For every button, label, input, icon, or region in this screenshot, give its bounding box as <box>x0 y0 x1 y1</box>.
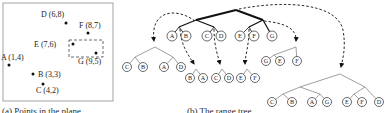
range-tree-figure: A (1,4) B (3,3) C (4,2) D (6,8) E (7,6) … <box>0 0 385 113</box>
svg-text:A: A <box>170 32 175 39</box>
svg-text:D: D <box>219 32 224 39</box>
assoc-leaf: D <box>375 98 384 107</box>
tree-leaf: B <box>181 31 191 41</box>
svg-text:D: D <box>227 74 232 81</box>
svg-text:F: F <box>252 32 256 39</box>
point-label-f: F (8,7) <box>79 21 101 30</box>
point-label-e: E (7,6) <box>34 40 57 49</box>
assoc-leaf: D <box>225 74 234 83</box>
point-label-a: A (1,4) <box>1 53 24 62</box>
assoc-structure-ba: B A <box>186 74 208 83</box>
point-dot-d <box>65 22 68 25</box>
svg-text:A: A <box>201 74 206 81</box>
svg-text:C: C <box>125 63 129 70</box>
svg-text:E: E <box>238 32 242 39</box>
query-rectangle <box>69 40 103 57</box>
assoc-leaf: A <box>160 63 169 72</box>
tree-leaf: C <box>202 31 212 41</box>
point-dot-g <box>95 52 98 55</box>
tree-leaf: E <box>235 31 245 41</box>
assoc-leaf: C <box>268 98 277 107</box>
svg-text:C: C <box>205 32 209 39</box>
point-label-b: B (3,3) <box>38 70 61 79</box>
svg-text:A: A <box>162 63 167 70</box>
svg-text:B: B <box>188 74 192 81</box>
point-dot-a <box>8 64 11 67</box>
tree-leaf: D <box>216 31 226 41</box>
svg-text:E: E <box>345 98 349 105</box>
svg-text:G: G <box>325 98 330 105</box>
svg-text:C: C <box>214 74 218 81</box>
assoc-leaf: B <box>139 63 148 72</box>
tree-leaf: F <box>249 31 259 41</box>
assoc-leaf: F <box>358 98 367 107</box>
point-dot-e <box>72 43 75 46</box>
panel-a-point-plot: A (1,4) B (3,3) C (4,2) D (6,8) E (7,6) … <box>1 3 113 101</box>
svg-text:D: D <box>179 63 184 70</box>
assoc-leaf: D <box>177 63 186 72</box>
assoc-structure-cbagefd: C B A G E F D <box>268 98 384 107</box>
svg-text:B: B <box>184 32 189 39</box>
figure-canvas: A (1,4) B (3,3) C (4,2) D (6,8) E (7,6) … <box>0 0 385 113</box>
caption-b: (b) The range tree <box>187 106 252 113</box>
assoc-leaf: E <box>276 57 285 66</box>
assoc-structure-gef: G E F <box>262 57 302 66</box>
point-label-d: D (6,8) <box>41 10 64 19</box>
assoc-leaf: G <box>262 57 271 66</box>
assoc-leaf: F <box>251 74 260 83</box>
assoc-structure-cbad: C B A D <box>123 63 186 72</box>
assoc-leaf: E <box>343 98 352 107</box>
assoc-leaf: G <box>323 98 332 107</box>
svg-text:G: G <box>270 32 275 39</box>
assoc-leaf: C <box>123 63 132 72</box>
assoc-leaf: B <box>288 98 297 107</box>
point-dot-f <box>87 32 90 35</box>
svg-text:G: G <box>264 57 269 64</box>
point-dot-b <box>32 73 35 76</box>
svg-text:B: B <box>290 98 294 105</box>
assoc-structure-cd: C D <box>212 74 234 83</box>
assoc-leaf: A <box>199 74 208 83</box>
panel-b-range-tree: A B C D E F G C B A D B A C D E F G <box>123 4 384 106</box>
svg-text:F: F <box>253 74 257 81</box>
svg-text:B: B <box>141 63 145 70</box>
assoc-leaf: E <box>237 74 246 83</box>
caption-a: (a) Points in the plane <box>2 106 81 113</box>
svg-text:E: E <box>278 57 282 64</box>
assoc-leaf: F <box>293 57 302 66</box>
point-label-c: C (4,2) <box>36 86 59 95</box>
assoc-leaf: C <box>212 74 221 83</box>
svg-text:E: E <box>239 74 243 81</box>
svg-text:D: D <box>377 98 382 105</box>
assoc-leaf: A <box>308 98 317 107</box>
assoc-leaf: B <box>186 74 195 83</box>
tree-leaf: G <box>267 31 277 41</box>
point-label-g: G (9,5) <box>78 57 101 66</box>
svg-text:F: F <box>295 57 299 64</box>
assoc-structure-ef: E F <box>237 74 260 83</box>
svg-text:A: A <box>310 98 315 105</box>
main-tree-leaves: A B C D E F G <box>167 31 277 41</box>
svg-text:C: C <box>270 98 274 105</box>
svg-text:F: F <box>360 98 364 105</box>
tree-leaf: A <box>167 31 177 41</box>
